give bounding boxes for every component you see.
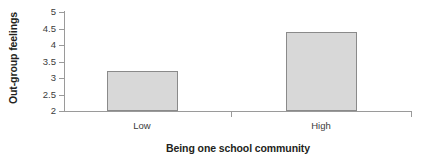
y-tick-label-2: 2 bbox=[16, 106, 56, 116]
y-tick-label-4: 4 bbox=[16, 40, 56, 50]
y-tick-label-3: 3 bbox=[16, 73, 56, 83]
y-tick-mark-4 bbox=[59, 45, 64, 46]
y-axis-line bbox=[64, 11, 65, 112]
y-tick-mark-3.5 bbox=[59, 62, 64, 63]
bar-chart: Out-group feelings 5 4.5 4 3.5 3 2.5 2 L… bbox=[0, 0, 426, 161]
bar-high[interactable] bbox=[286, 32, 357, 111]
y-tick-mark-4.5 bbox=[59, 29, 64, 30]
y-tick-mark-2 bbox=[59, 111, 64, 112]
x-tick-mark-mid bbox=[231, 112, 232, 117]
y-tick-label-2.5: 2.5 bbox=[16, 90, 56, 100]
x-axis-title: Being one school community bbox=[64, 142, 412, 155]
y-tick-mark-2.5 bbox=[59, 95, 64, 96]
y-tick-mark-5 bbox=[59, 12, 64, 13]
y-tick-label-4.5: 4.5 bbox=[16, 24, 56, 34]
x-axis-line bbox=[64, 111, 412, 112]
y-tick-label-3.5: 3.5 bbox=[16, 57, 56, 67]
x-tick-mark-right bbox=[411, 112, 412, 117]
y-tick-mark-3 bbox=[59, 78, 64, 79]
y-tick-label-5: 5 bbox=[16, 7, 56, 17]
category-label-high: High bbox=[261, 120, 381, 132]
category-label-low: Low bbox=[82, 120, 202, 132]
bar-low[interactable] bbox=[107, 71, 178, 111]
